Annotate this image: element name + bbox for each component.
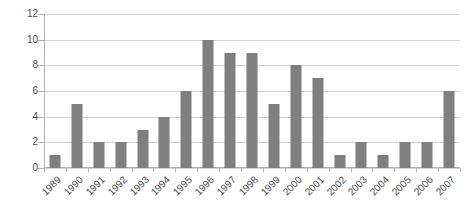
- bar-slot: [197, 14, 219, 168]
- x-axis-tick-label: 2007: [434, 174, 458, 198]
- bar: [290, 65, 301, 168]
- x-axis-tick-label: 1995: [171, 174, 195, 198]
- bar: [203, 40, 214, 168]
- x-axis-tick-label: 2006: [412, 174, 436, 198]
- bar-slot: [285, 14, 307, 168]
- x-axis-tick-label: 2000: [280, 174, 304, 198]
- x-axis-labels: 1989199019911992199319941995199619971998…: [44, 168, 460, 215]
- bar-slot: [88, 14, 110, 168]
- bar: [71, 104, 82, 168]
- y-axis-labels: 024681012: [0, 14, 38, 168]
- bar: [49, 155, 60, 168]
- bar-slot: [351, 14, 373, 168]
- x-axis-tick-label: 2004: [368, 174, 392, 198]
- x-axis-tick-label: 1990: [61, 174, 85, 198]
- x-axis-tick-label: 1996: [193, 174, 217, 198]
- x-axis-tick-label: 1989: [39, 174, 63, 198]
- x-axis-tick-label: 1998: [237, 174, 261, 198]
- x-axis-tick-label: 1993: [127, 174, 151, 198]
- bar: [159, 117, 170, 168]
- bar: [115, 142, 126, 168]
- bar-slot: [263, 14, 285, 168]
- bar: [356, 142, 367, 168]
- bar-slot: [132, 14, 154, 168]
- y-axis-tick-label: 4: [4, 112, 38, 122]
- bar-chart: 024681012 198919901991199219931994199519…: [0, 0, 475, 215]
- bar-slot: [372, 14, 394, 168]
- y-axis-tick-label: 0: [4, 163, 38, 173]
- bar: [400, 142, 411, 168]
- x-axis-tick-label: 1992: [105, 174, 129, 198]
- bar-slot: [241, 14, 263, 168]
- bar-slot: [329, 14, 351, 168]
- bar-slot: [219, 14, 241, 168]
- bar: [93, 142, 104, 168]
- y-axis-tick-label: 2: [4, 137, 38, 147]
- y-axis-tick-label: 6: [4, 86, 38, 96]
- bar-slot: [153, 14, 175, 168]
- bar: [312, 78, 323, 168]
- x-axis-tick-label: 2001: [302, 174, 326, 198]
- bar-slot: [307, 14, 329, 168]
- x-axis-tick-label: 1997: [215, 174, 239, 198]
- bar: [378, 155, 389, 168]
- bar-slot: [438, 14, 460, 168]
- bar-slot: [66, 14, 88, 168]
- bar: [137, 130, 148, 169]
- x-axis-tick-label: 2002: [324, 174, 348, 198]
- y-axis-tick-label: 12: [4, 9, 38, 19]
- bar-slot: [44, 14, 66, 168]
- x-axis-tick-label: 1999: [258, 174, 282, 198]
- x-axis-tick-label: 2003: [346, 174, 370, 198]
- y-axis-tick-label: 10: [4, 35, 38, 45]
- x-axis-tick-label: 1991: [83, 174, 107, 198]
- bar: [181, 91, 192, 168]
- bar: [444, 91, 455, 168]
- bar: [422, 142, 433, 168]
- bars: [44, 14, 460, 168]
- x-axis-tick-label: 1994: [149, 174, 173, 198]
- y-axis-tick-label: 8: [4, 60, 38, 70]
- bar: [246, 53, 257, 169]
- bar: [334, 155, 345, 168]
- bar: [268, 104, 279, 168]
- bar: [225, 53, 236, 169]
- x-axis-tick-label: 2005: [390, 174, 414, 198]
- bar-slot: [416, 14, 438, 168]
- x-axis-tick: [460, 168, 461, 172]
- bar-slot: [394, 14, 416, 168]
- plot-area: [44, 14, 460, 168]
- bar-slot: [110, 14, 132, 168]
- bar-slot: [175, 14, 197, 168]
